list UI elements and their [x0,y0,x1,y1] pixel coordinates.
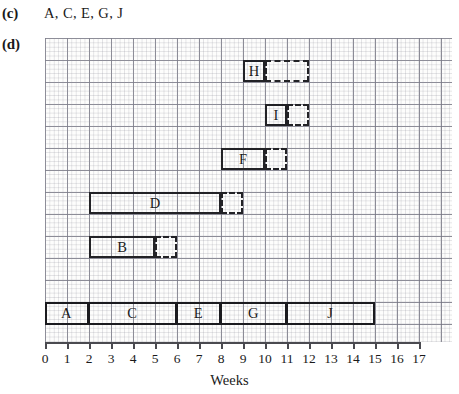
critical-path-divider [219,304,222,323]
activity-bar-h: H [243,60,265,82]
x-axis-tick [133,342,135,349]
activity-bar-label: H [249,64,259,79]
x-axis-tick [287,342,289,349]
x-axis-tick-label: 2 [78,352,100,366]
x-axis-tick-label: 7 [188,352,210,366]
activity-bar-b: B [89,236,155,258]
x-axis-tick [111,342,113,349]
critical-path-divider [87,304,90,323]
x-axis-tick [419,342,421,349]
critical-path-cell-c: C [88,304,176,323]
activity-bar-label: I [274,108,279,123]
part-c-label: (c) [2,5,38,22]
x-axis-tick [221,342,223,349]
part-c-answer-text: A, C, E, G, J [44,5,123,22]
x-axis-tick-label: 17 [408,352,430,366]
activity-bar-i: I [265,104,287,126]
x-axis-tick [155,342,157,349]
x-axis-tick-label: 13 [320,352,342,366]
x-axis-tick [375,342,377,349]
x-axis-tick [67,342,69,349]
critical-path-cell-label: A [61,306,71,321]
x-axis-tick [353,342,355,349]
x-axis-tick-label: 9 [232,352,254,366]
float-box-d [221,192,243,214]
float-box-b [155,236,177,258]
x-axis-tick-label: 16 [386,352,408,366]
x-axis-tick-label: 1 [56,352,78,366]
critical-path-cell-label: E [194,306,203,321]
critical-path-divider [175,304,178,323]
x-axis-tick-label: 8 [210,352,232,366]
activity-bar-label: B [117,240,127,255]
x-axis-tick [177,342,179,349]
critical-path-row: ACEGJ [45,302,375,325]
x-axis-tick [45,342,47,349]
part-d-label: (d) [2,36,20,53]
x-axis-tick-label: 5 [144,352,166,366]
x-axis-tick [265,342,267,349]
critical-path-cell-j: J [286,304,374,323]
critical-path-cell-e: E [176,304,220,323]
x-axis-line [45,342,419,344]
x-axis-tick-label: 6 [166,352,188,366]
x-axis-tick [309,342,311,349]
activity-bar-f: F [221,148,265,170]
part-c-line: (c) A, C, E, G, J [0,0,459,26]
x-axis-tick-label: 11 [276,352,298,366]
critical-path-cell-label: J [327,306,333,321]
x-axis-tick-label: 12 [298,352,320,366]
x-axis-tick-label: 14 [342,352,364,366]
float-box-f [265,148,287,170]
critical-path-cell-label: C [127,306,137,321]
activity-bar-d: D [89,192,221,214]
critical-path-divider [285,304,288,323]
x-axis-tick [243,342,245,349]
x-axis-tick-label: 0 [34,352,56,366]
x-axis-title: Weeks [0,372,459,389]
x-axis-tick [331,342,333,349]
x-axis-tick [89,342,91,349]
x-axis-tick [397,342,399,349]
float-box-h [265,60,309,82]
critical-path-cell-g: G [220,304,286,323]
x-axis-tick-label: 4 [122,352,144,366]
activity-bar-label: F [239,152,247,167]
float-box-i [287,104,309,126]
x-axis-tick-label: 3 [100,352,122,366]
activity-bar-label: D [150,196,160,211]
critical-path-cell-a: A [44,304,88,323]
critical-path-cell-label: G [248,306,258,321]
x-axis-tick-label: 10 [254,352,276,366]
gantt-chart: HIFDB ACEGJ [45,38,452,342]
x-axis-tick-label: 15 [364,352,386,366]
x-axis-tick [199,342,201,349]
graph-paper-background [45,38,452,342]
